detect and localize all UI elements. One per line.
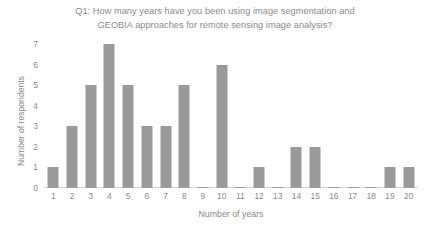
bar-slot [212, 44, 231, 188]
bar-slot [287, 44, 306, 188]
x-tick-label-9: 9 [201, 191, 206, 201]
bar-slot [63, 44, 82, 188]
y-tick-label-4: 4 [24, 101, 38, 111]
chart-title-line-2: GEOBIA approaches for remote sensing ima… [40, 18, 390, 32]
y-tick-label-6: 6 [24, 60, 38, 70]
x-tick-label-12: 12 [254, 191, 263, 201]
x-tick-label-10: 10 [217, 191, 226, 201]
bar-14 [291, 147, 302, 188]
bar-1 [48, 167, 59, 188]
bar-5 [123, 85, 134, 188]
bar-slot [343, 44, 362, 188]
bar-slot [100, 44, 119, 188]
bar-16 [328, 187, 339, 188]
x-tick-label-19: 19 [385, 191, 394, 201]
x-tick-label-13: 13 [273, 191, 282, 201]
bar-4 [104, 44, 115, 188]
x-tick-label-14: 14 [292, 191, 301, 201]
x-tick-label-17: 17 [348, 191, 357, 201]
x-tick-label-2: 2 [70, 191, 75, 201]
x-tick-label-6: 6 [145, 191, 150, 201]
x-tick-label-7: 7 [163, 191, 168, 201]
bar-20 [403, 167, 414, 188]
bar-chart-figure: Q1: How many years have you been using i… [0, 0, 425, 248]
bar-3 [85, 85, 96, 188]
x-axis-title: Number of years [44, 209, 418, 219]
x-tick-label-16: 16 [329, 191, 338, 201]
bar-slot [325, 44, 344, 188]
bar-13 [272, 187, 283, 188]
bar-slot [81, 44, 100, 188]
bar-10 [216, 65, 227, 188]
x-tick-label-1: 1 [51, 191, 56, 201]
bar-12 [254, 167, 265, 188]
bar-slot [231, 44, 250, 188]
bar-slot [250, 44, 269, 188]
bar-17 [347, 187, 358, 188]
x-tick-label-3: 3 [88, 191, 93, 201]
chart-title-line-1: Q1: How many years have you been using i… [40, 4, 390, 18]
bar-19 [384, 167, 395, 188]
bar-9 [197, 187, 208, 188]
x-tick-label-20: 20 [404, 191, 413, 201]
chart-title: Q1: How many years have you been using i… [40, 4, 390, 32]
bar-slot [194, 44, 213, 188]
x-tick-label-4: 4 [107, 191, 112, 201]
bar-slot [381, 44, 400, 188]
bar-slot [44, 44, 63, 188]
bar-slot [119, 44, 138, 188]
y-axis-tick-labels: 01234567 [24, 44, 38, 188]
x-tick-label-18: 18 [367, 191, 376, 201]
bar-slot [362, 44, 381, 188]
bar-slot [175, 44, 194, 188]
y-tick-label-2: 2 [24, 142, 38, 152]
y-tick-label-1: 1 [24, 162, 38, 172]
y-tick-label-3: 3 [24, 121, 38, 131]
bar-6 [141, 126, 152, 188]
x-tick-label-5: 5 [126, 191, 131, 201]
bar-slot [399, 44, 418, 188]
y-tick-label-5: 5 [24, 80, 38, 90]
bar-slot [268, 44, 287, 188]
bar-slot [306, 44, 325, 188]
bar-2 [67, 126, 78, 188]
y-tick-label-0: 0 [24, 183, 38, 193]
bar-slot [156, 44, 175, 188]
x-tick-label-15: 15 [310, 191, 319, 201]
bar-8 [179, 85, 190, 188]
x-axis-tick-labels: 1234567891011121314151617181920 [44, 191, 418, 205]
y-tick-label-7: 7 [24, 39, 38, 49]
bar-slot [138, 44, 157, 188]
x-tick-label-8: 8 [182, 191, 187, 201]
x-tick-label-11: 11 [236, 191, 245, 201]
plot-area [44, 44, 418, 188]
bar-15 [310, 147, 321, 188]
bar-7 [160, 126, 171, 188]
bar-11 [235, 187, 246, 188]
bar-18 [366, 187, 377, 188]
